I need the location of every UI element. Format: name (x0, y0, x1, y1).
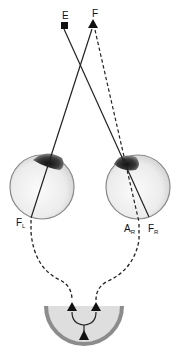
right-eye (106, 155, 170, 219)
label-F: F (92, 8, 98, 19)
label-FL: FL (16, 217, 26, 229)
label-FR: FR (148, 223, 159, 235)
label-E: E (62, 10, 69, 21)
left-optic-path (31, 220, 72, 300)
point-E-square-icon (61, 22, 68, 29)
brain (46, 302, 122, 344)
left-eye (10, 153, 74, 219)
label-AR: AR (124, 223, 136, 235)
point-F-triangle-icon (88, 19, 98, 28)
binocular-vision-diagram: E F FL AR FR (0, 0, 178, 359)
right-optic-path (96, 224, 139, 300)
